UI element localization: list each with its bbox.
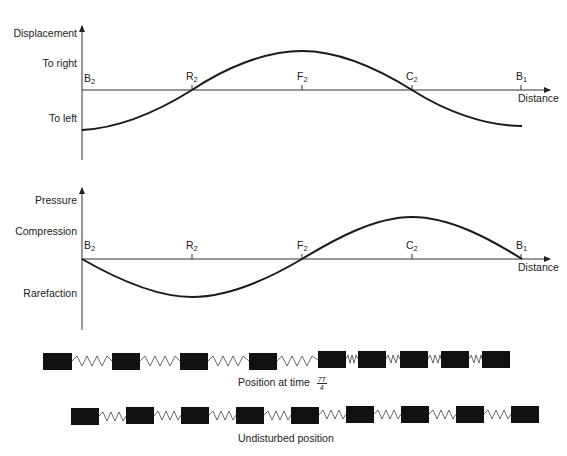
to-right-label: To right <box>43 57 78 69</box>
displacement-axis-label: Displacement <box>13 27 77 39</box>
undisturbed-spring-row <box>71 406 539 425</box>
time-fraction: 7T 4 <box>317 376 327 391</box>
point-f2-label-2: F2 <box>297 239 308 253</box>
to-left-label: To left <box>49 112 77 124</box>
point-r2-label-2: R2 <box>186 239 198 253</box>
compression-label: Compression <box>15 225 77 237</box>
point-b1-label: B1 <box>516 70 527 84</box>
point-b2-label: B2 <box>84 72 95 86</box>
pressure-axis-label: Pressure <box>35 194 77 206</box>
point-b1-label-2: B1 <box>516 239 527 253</box>
point-f2-label: F2 <box>297 70 308 84</box>
point-r2-label: R2 <box>186 70 198 84</box>
fraction-numerator: 7T <box>317 376 327 384</box>
displaced-caption-text: Position at time <box>238 376 310 388</box>
undisturbed-position-caption: Undisturbed position <box>238 432 334 444</box>
pressure-graph: Pressure Compression Rarefaction Distanc… <box>15 188 559 330</box>
point-b2-label-2: B2 <box>84 239 95 253</box>
displaced-position-caption: Position at time 7T 4 <box>238 376 327 391</box>
distance-axis-label: Distance <box>518 92 559 104</box>
rarefaction-label: Rarefaction <box>23 287 77 299</box>
distance-axis-label-2: Distance <box>518 261 559 273</box>
point-c2-label-2: C2 <box>406 239 418 253</box>
point-c2-label: C2 <box>406 70 418 84</box>
displacement-graph: Displacement To right To left Distance B… <box>13 26 559 160</box>
fraction-denominator: 4 <box>317 384 327 391</box>
displaced-spring-row <box>43 351 510 370</box>
